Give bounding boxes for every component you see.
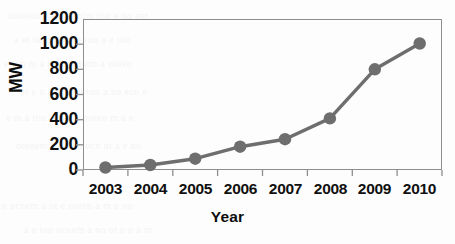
chart-screenshot: notenot e ecn a nim ton e no ent a et ne… (0, 0, 455, 244)
x-tick-label-2010: 2010 (395, 181, 444, 197)
data-point-2008 (324, 112, 336, 124)
data-point-2003 (99, 161, 111, 173)
data-point-markers (99, 37, 426, 173)
x-tick-label-2007: 2007 (261, 181, 310, 197)
x-tick-label-2005: 2005 (171, 181, 220, 197)
x-tick-label-2008: 2008 (306, 181, 355, 197)
data-point-2006 (234, 141, 246, 153)
data-point-2004 (144, 159, 156, 171)
data-series-line (105, 44, 419, 168)
x-tick-label-2009: 2009 (350, 181, 399, 197)
x-tick-label-2003: 2003 (81, 181, 130, 197)
data-point-2005 (189, 153, 201, 165)
y-axis-tick-marks (76, 44, 83, 170)
x-axis-tick-marks (83, 170, 442, 176)
x-tick-label-2004: 2004 (126, 181, 175, 197)
x-tick-label-2006: 2006 (216, 181, 265, 197)
data-point-2010 (414, 37, 426, 49)
data-point-2009 (369, 63, 381, 75)
data-point-2007 (279, 133, 291, 145)
x-axis-title: Year (0, 208, 455, 226)
